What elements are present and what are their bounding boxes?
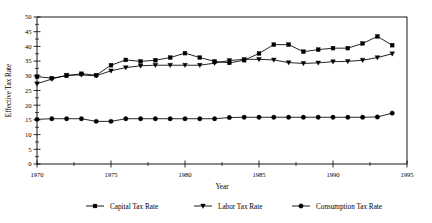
circle-marker [257, 115, 261, 119]
y-tick-label: 15 [25, 116, 32, 123]
circle-marker [286, 115, 290, 119]
square-marker [346, 46, 350, 50]
circle-marker [183, 117, 187, 121]
chart-legend: Capital Tax RateLabor Tax RateConsumptio… [86, 203, 382, 211]
legend-item-capital-tax-rate[interactable]: Capital Tax Rate [86, 203, 158, 211]
line-chart-canvas: 05101520253035404550 1970197519801985199… [0, 0, 432, 223]
circle-marker [299, 204, 303, 208]
triangle-down-marker [35, 82, 40, 86]
x-axis-tick-labels: 197019751980198519901995 [30, 171, 414, 178]
square-marker [183, 51, 187, 55]
x-tick-label: 1975 [104, 171, 118, 178]
series-line [37, 54, 392, 84]
circle-marker [227, 115, 231, 119]
square-marker [272, 43, 276, 47]
y-tick-label: 40 [25, 43, 32, 50]
plot-area-frame [37, 17, 407, 164]
y-axis-ticks [34, 17, 41, 164]
series-labor-tax-rate [35, 52, 395, 86]
x-tick-label: 1985 [252, 171, 266, 178]
square-marker [257, 52, 261, 56]
circle-marker [331, 115, 335, 119]
circle-marker [316, 115, 320, 119]
series-consumption-tax-rate [35, 111, 395, 124]
circle-marker [375, 115, 379, 119]
chart-figure: 05101520253035404550 1970197519801985199… [0, 0, 432, 223]
circle-marker [360, 115, 364, 119]
circle-marker [138, 117, 142, 121]
circle-marker [153, 117, 157, 121]
circle-marker [79, 117, 83, 121]
circle-marker [168, 117, 172, 121]
circle-marker [272, 115, 276, 119]
circle-marker [390, 111, 394, 115]
square-marker [316, 48, 320, 52]
circle-marker [124, 117, 128, 121]
y-tick-label: 45 [25, 28, 32, 35]
x-tick-label: 1980 [178, 171, 192, 178]
square-marker [287, 43, 291, 47]
legend-item-labor-tax-rate[interactable]: Labor Tax Rate [194, 203, 262, 211]
square-marker [168, 56, 172, 60]
x-tick-label: 1990 [326, 171, 340, 178]
y-axis-title: Effective Tax Rate [5, 64, 13, 118]
x-tick-label: 1995 [400, 171, 414, 178]
square-marker [93, 204, 97, 208]
legend-item-consumption-tax-rate[interactable]: Consumption Tax Rate [292, 203, 382, 211]
circle-marker [64, 117, 68, 121]
square-marker [198, 56, 202, 60]
square-marker [124, 58, 128, 62]
y-tick-label: 25 [25, 87, 32, 94]
square-marker [109, 63, 113, 67]
circle-marker [198, 117, 202, 121]
y-tick-label: 50 [25, 13, 32, 20]
square-marker [139, 59, 143, 63]
series-capital-tax-rate [35, 35, 394, 81]
circle-marker [346, 115, 350, 119]
y-tick-label: 10 [25, 131, 32, 138]
circle-marker [109, 119, 113, 123]
y-tick-label: 20 [25, 102, 32, 109]
y-tick-label: 35 [25, 57, 32, 64]
circle-marker [242, 115, 246, 119]
square-marker [154, 58, 158, 62]
square-marker [390, 43, 394, 47]
legend-item-label: Capital Tax Rate [110, 203, 158, 211]
circle-marker [212, 117, 216, 121]
x-tick-label: 1970 [30, 171, 44, 178]
circle-marker [301, 115, 305, 119]
y-tick-label: 0 [28, 160, 32, 167]
square-marker [361, 42, 365, 46]
circle-marker [50, 117, 54, 121]
legend-item-label: Consumption Tax Rate [316, 203, 382, 211]
square-marker [376, 35, 380, 39]
circle-marker [94, 119, 98, 123]
y-tick-label: 5 [28, 146, 32, 153]
x-axis-title: Year [215, 183, 229, 191]
y-tick-label: 30 [25, 72, 32, 79]
series-line [37, 36, 392, 78]
circle-marker [35, 117, 39, 121]
y-axis-tick-labels: 05101520253035404550 [25, 13, 32, 167]
square-marker [35, 75, 39, 79]
square-marker [331, 46, 335, 50]
legend-item-label: Labor Tax Rate [218, 203, 262, 211]
square-marker [302, 50, 306, 54]
data-series-group [35, 35, 395, 124]
